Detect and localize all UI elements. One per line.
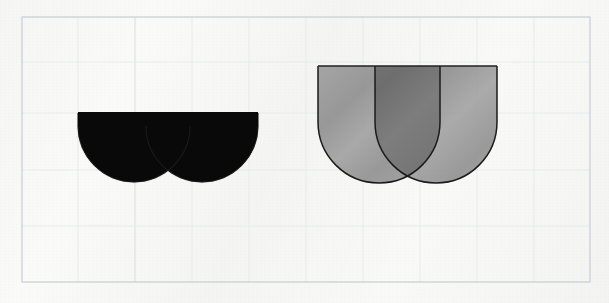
right-translucent-shape [0, 0, 609, 303]
figure-canvas: Two overlapping U-shapes: filled union a… [0, 0, 609, 303]
